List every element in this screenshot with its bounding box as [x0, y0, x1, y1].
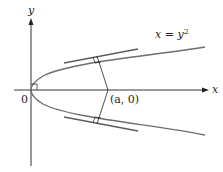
- parabola-curve: [31, 47, 205, 135]
- curve-equation-main: x = y: [155, 28, 184, 41]
- y-axis-arrow-icon: [29, 18, 34, 25]
- x-axis-arrow-icon: [202, 88, 209, 93]
- x-axis-label: x: [212, 83, 219, 96]
- curve-equation-exponent: 2: [184, 27, 189, 36]
- parabola-diagram: y x 0 (a, 0) x = y2: [0, 0, 223, 172]
- point-label: (a, 0): [110, 93, 139, 106]
- y-axis-label: y: [27, 4, 35, 17]
- curve-equation-label: x = y2: [155, 27, 189, 41]
- origin-label: 0: [21, 93, 28, 106]
